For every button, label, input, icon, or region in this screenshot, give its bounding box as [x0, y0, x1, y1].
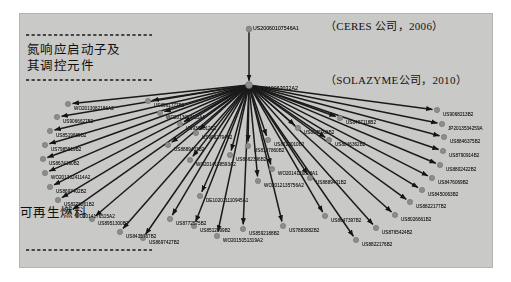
patent-node[interactable]	[65, 101, 70, 106]
patent-node[interactable]	[265, 137, 270, 142]
patent-node[interactable]	[193, 130, 198, 135]
root-patent-label: US20060107546A1	[253, 26, 299, 31]
patent-node-label: US8697402B2	[56, 189, 86, 194]
solazyme-annotation: （SOLAZYME公司，2010）	[325, 71, 467, 87]
patent-node-label: US8662396B2	[236, 157, 266, 162]
patent-node[interactable]	[187, 157, 192, 162]
patent-node[interactable]	[240, 226, 245, 231]
patent-node[interactable]	[177, 121, 182, 126]
patent-node-label: US8476069B2	[438, 180, 468, 185]
patent-node-label: US7883882B2	[289, 228, 319, 233]
patent-node[interactable]	[439, 121, 444, 126]
patent-node[interactable]	[167, 216, 172, 221]
renewable-fuel-zone-label: 可再生燃料	[20, 205, 87, 221]
hub-patent-node[interactable]	[246, 82, 253, 89]
patent-node-label: US9068213B2	[443, 112, 473, 117]
patent-node[interactable]	[54, 114, 59, 119]
patent-node-label: US8187860B2	[254, 148, 284, 153]
patent-node[interactable]	[145, 98, 150, 103]
patent-node-label: US7985519B2	[51, 147, 81, 152]
patent-node[interactable]	[42, 142, 47, 147]
citation-edge	[252, 86, 428, 176]
ceres-annotation: （CERES 公司，2006）	[325, 17, 443, 33]
patent-node[interactable]	[269, 166, 274, 171]
patent-node-label: US8026661B2	[401, 217, 431, 222]
patent-node[interactable]	[337, 115, 342, 120]
patent-node[interactable]	[40, 156, 45, 161]
patent-node-label: US8435767B2	[126, 234, 156, 239]
patent-node[interactable]	[437, 162, 442, 167]
patent-node[interactable]	[392, 212, 397, 217]
patent-node-label: US8497118B2	[346, 120, 376, 125]
patent-node[interactable]	[373, 225, 378, 230]
patent-node[interactable]	[42, 170, 47, 175]
patent-node[interactable]	[434, 107, 439, 112]
patent-node-label: US8846362B2	[335, 142, 365, 147]
patent-node-label: US8772575B2	[176, 221, 206, 226]
patent-node-label: US8802422B2	[446, 167, 476, 172]
patent-node-label: WO2012135756A2	[264, 183, 304, 188]
nitrogen-promoter-zone-label: 氮响应启动子及 其调控元件	[27, 42, 121, 74]
citation-edge	[248, 88, 249, 141]
patent-node-label: US8765424B2	[382, 230, 412, 235]
patent-node-label: WO2014138593A2	[196, 162, 236, 167]
patent-node-label: DE102011110945A1	[206, 198, 248, 203]
patent-node[interactable]	[441, 134, 446, 139]
patent-node-label: WO2015051319A2	[223, 238, 263, 243]
patent-node-label: US8889401B2	[316, 180, 346, 185]
patent-node[interactable]	[165, 142, 170, 147]
patent-node[interactable]	[227, 152, 232, 157]
patent-node-label: US8697427B2	[149, 240, 179, 245]
patent-node[interactable]	[307, 175, 312, 180]
patent-node[interactable]	[353, 237, 358, 242]
hub-patent-label: WO2010063032A2	[253, 86, 298, 91]
patent-node[interactable]	[157, 110, 162, 115]
patent-node-label: WO2013024114A2	[51, 175, 90, 180]
citation-edge	[252, 86, 440, 136]
patent-node-label: US8822177B2	[416, 204, 446, 209]
patent-node-label: US9303012B2	[186, 126, 216, 131]
patent-node-label: US9062794B2	[202, 135, 232, 140]
patent-node-label: US8512999B2	[200, 228, 230, 233]
patent-node[interactable]	[295, 125, 300, 130]
patent-node[interactable]	[407, 199, 412, 204]
patent-node[interactable]	[255, 178, 260, 183]
patent-node-label: US8945908B2	[304, 130, 334, 135]
patent-node-label: US8647397B2	[331, 218, 361, 223]
patent-node[interactable]	[47, 184, 52, 189]
patent-node[interactable]	[245, 143, 250, 148]
patent-node[interactable]	[55, 197, 60, 202]
patent-node[interactable]	[419, 187, 424, 192]
patent-node-label: JP2013534259A	[448, 126, 483, 131]
patent-node-label: US8790914B2	[449, 153, 479, 158]
patent-node[interactable]	[197, 193, 202, 198]
patent-node-label: WO2014120828A1	[278, 171, 318, 176]
patent-node-label: WO2013024111A1	[166, 115, 205, 120]
patent-node-label: US8450063B2	[428, 192, 458, 197]
patent-node-label: US8951300B2	[98, 221, 128, 226]
patent-node[interactable]	[326, 137, 331, 142]
root-patent-node[interactable]	[246, 26, 252, 32]
patent-node[interactable]	[440, 148, 445, 153]
patent-node-label: US8674190B2	[49, 161, 79, 166]
patent-node-label: US8846375B2	[450, 139, 480, 144]
patent-node[interactable]	[280, 223, 285, 228]
patent-node-label: US8519689B2	[56, 133, 86, 138]
diagram-root: US20060107546A1WO2010063032A2WO201308218…	[0, 0, 511, 282]
patent-node[interactable]	[429, 175, 434, 180]
patent-node[interactable]	[214, 233, 219, 238]
patent-node-label: US8822176B2	[362, 242, 392, 247]
patent-node-label: WO2013082186A2	[74, 106, 114, 111]
patent-node-label: US8592188B2	[249, 231, 279, 236]
patent-node[interactable]	[117, 229, 122, 234]
patent-node-label: US8961777B2	[154, 103, 184, 108]
patent-node-label: US9066627B2	[63, 119, 93, 124]
patent-node[interactable]	[322, 213, 327, 218]
patent-node[interactable]	[47, 128, 52, 133]
patent-node-label: US8889403B2	[174, 147, 204, 152]
patent-node-label: US8222010B2	[274, 142, 304, 147]
